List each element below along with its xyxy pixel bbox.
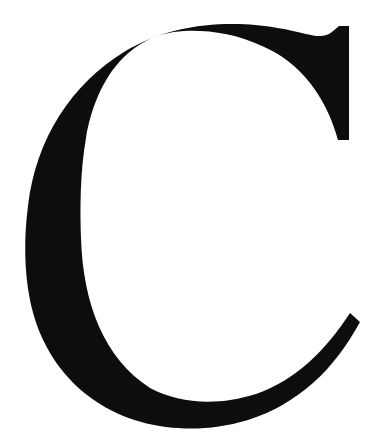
letter-c-glyph: C [0, 0, 381, 446]
letter-c-icon [0, 0, 381, 446]
